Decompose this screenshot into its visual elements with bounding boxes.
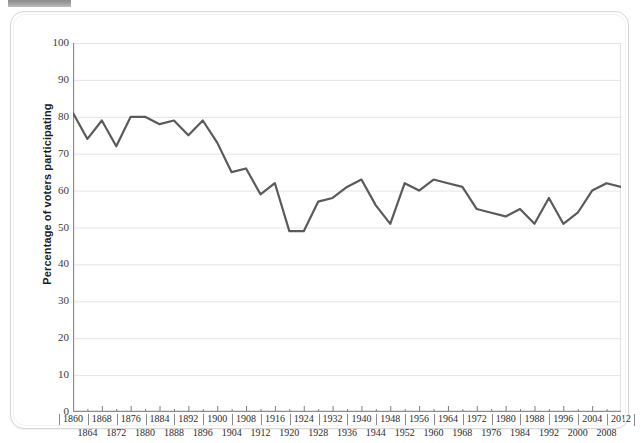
x-axis-tick-label: 1952 [392, 427, 418, 438]
x-axis-label-separator [405, 414, 406, 426]
x-axis-tick-label: 1976 [478, 427, 504, 438]
x-axis-label-separator [203, 414, 204, 426]
x-axis-tick-label: 1960 [421, 427, 447, 438]
x-axis-label-separator [261, 414, 262, 426]
x-axis-label-separator [146, 414, 147, 426]
y-axis-tick-label: 100 [29, 36, 69, 48]
x-axis-tick-label: 2000 [565, 427, 591, 438]
x-axis-tick-label: 1948 [377, 413, 403, 424]
x-axis-tick-label: 1956 [406, 413, 432, 424]
x-axis-tick-label: 1988 [521, 413, 547, 424]
top-left-gray-artifact [8, 0, 71, 7]
x-axis-tick-label: 1904 [219, 427, 245, 438]
x-axis-tick-label: 1928 [305, 427, 331, 438]
x-axis-tick-labels: 1860186418681872187618801884188818921896… [73, 413, 629, 443]
x-axis-tick-label: 1968 [449, 427, 475, 438]
x-axis-tick-label: 1864 [74, 427, 100, 438]
x-axis-tick-label: 1916 [262, 413, 288, 424]
x-axis-label-separator [376, 414, 377, 426]
x-axis-tick-label: 1880 [132, 427, 158, 438]
y-axis-tick-label: 70 [29, 147, 69, 159]
x-axis-tick-label: 1944 [363, 427, 389, 438]
x-axis-tick-label: 1920 [276, 427, 302, 438]
x-axis-tick-label: 1860 [60, 413, 86, 424]
x-axis-label-separator [88, 414, 89, 426]
x-axis-label-separator [492, 414, 493, 426]
x-axis-tick-label: 1964 [435, 413, 461, 424]
gridlines [73, 44, 621, 376]
x-axis-label-separator [347, 414, 348, 426]
x-axis-tick-label: 1872 [103, 427, 129, 438]
x-axis-tick-label: 1992 [536, 427, 562, 438]
x-axis-tick-label: 1936 [334, 427, 360, 438]
x-axis-tick-label: 1884 [147, 413, 173, 424]
x-axis-tick-label: 1908 [233, 413, 259, 424]
x-axis-tick-label: 2008 [594, 427, 620, 438]
x-axis-label-separator [463, 414, 464, 426]
x-axis-tick-label: 1900 [204, 413, 230, 424]
x-axis-label-separator [117, 414, 118, 426]
x-axis-label-separator [607, 414, 608, 426]
y-axis-tick-label: 80 [29, 110, 69, 122]
x-axis-tick-label: 1996 [550, 413, 576, 424]
x-axis-label-separator [174, 414, 175, 426]
y-axis-tick-label: 50 [29, 221, 69, 233]
x-axis-label-separator [290, 414, 291, 426]
y-axis-tick-label: 30 [29, 294, 69, 306]
y-axis-tick-label: 90 [29, 73, 69, 85]
x-axis-label-separator [434, 414, 435, 426]
chart-card: Percentage of voters participating 01020… [10, 11, 629, 429]
x-axis-label-separator [634, 414, 635, 426]
x-axis-tick-label: 1868 [89, 413, 115, 424]
plot-area [73, 43, 621, 412]
x-axis-label-separator [59, 414, 60, 426]
x-axis-label-separator [549, 414, 550, 426]
line-chart-svg [73, 43, 621, 412]
x-axis-tick-label: 2012 [608, 413, 634, 424]
x-axis-tick-label: 1980 [493, 413, 519, 424]
x-axis-tick-label: 1888 [161, 427, 187, 438]
y-axis-tick-labels: 0102030405060708090100 [25, 12, 69, 428]
x-axis-tick-label: 1892 [175, 413, 201, 424]
x-axis-tick-label: 1932 [320, 413, 346, 424]
x-axis-tick-label: 1940 [348, 413, 374, 424]
voter-turnout-line [73, 113, 621, 231]
y-axis-tick-label: 10 [29, 368, 69, 380]
x-axis-label-separator [232, 414, 233, 426]
x-axis-label-separator [578, 414, 579, 426]
x-axis-label-separator [520, 414, 521, 426]
x-axis-tick-label: 1912 [247, 427, 273, 438]
x-axis-tick-label: 1924 [291, 413, 317, 424]
x-axis-tick-label: 1896 [190, 427, 216, 438]
x-axis-tick-label: 1972 [464, 413, 490, 424]
x-axis-label-separator [319, 414, 320, 426]
y-axis-tick-label: 40 [29, 257, 69, 269]
y-axis-tick-label: 60 [29, 184, 69, 196]
x-axis-tick-label: 1876 [118, 413, 144, 424]
x-axis-tick-label: 2004 [579, 413, 605, 424]
x-axis-tick-label: 1984 [507, 427, 533, 438]
y-axis-tick-label: 20 [29, 331, 69, 343]
